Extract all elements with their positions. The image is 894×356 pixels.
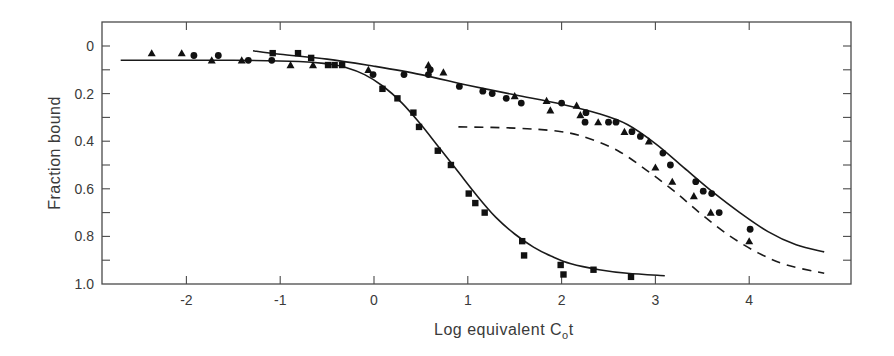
y-tick-label: 0.8: [75, 228, 95, 244]
y-tick-label: 0: [86, 38, 94, 54]
x-tick-label: -2: [180, 292, 193, 308]
x-tick-label: 2: [558, 292, 566, 308]
x-axis-title-tail: t: [569, 321, 574, 338]
circle-marker: [401, 71, 408, 78]
circle-marker: [692, 178, 699, 185]
circle-marker: [518, 100, 525, 107]
circle-marker: [660, 150, 667, 157]
square-marker: [521, 252, 527, 258]
circle-marker: [191, 52, 198, 59]
triangle-marker: [364, 66, 372, 73]
x-tick-label: 0: [370, 292, 378, 308]
curve-fit-circles-triangles: [253, 51, 824, 252]
triangle-marker: [178, 49, 186, 56]
circle-marker: [716, 209, 723, 216]
curve-predicted-dashed: [458, 127, 824, 273]
triangle-marker: [546, 106, 554, 113]
y-tick-label: 0.2: [75, 86, 95, 102]
curve-fit-squares: [121, 60, 665, 275]
square-marker: [435, 148, 441, 154]
square-marker: [269, 50, 275, 56]
square-marker: [519, 238, 525, 244]
triangle-marker: [573, 102, 581, 109]
triangle-marker: [745, 237, 753, 244]
circle-marker: [503, 95, 510, 102]
triangle-marker: [690, 192, 698, 199]
circle-marker: [708, 190, 715, 197]
x-axis-title: Log equivalent Cot: [434, 321, 574, 341]
x-tick-label: -1: [274, 292, 287, 308]
x-tick-label: 4: [745, 292, 753, 308]
square-marker: [295, 50, 301, 56]
y-tick-label: 0.4: [75, 133, 95, 149]
x-axis-title-main: Log equivalent C: [434, 321, 562, 338]
x-tick-label: 1: [464, 292, 472, 308]
square-marker: [325, 62, 331, 68]
square-marker: [472, 200, 478, 206]
data-markers: [148, 49, 754, 280]
circle-marker: [667, 162, 674, 169]
circle-marker: [479, 88, 486, 95]
triangle-marker: [651, 163, 659, 170]
square-marker: [416, 124, 422, 130]
circle-marker: [583, 109, 590, 116]
triangle-marker: [668, 178, 676, 185]
circle-marker: [215, 52, 222, 59]
square-marker: [628, 274, 634, 280]
square-marker: [339, 62, 345, 68]
y-tick-label: 0.6: [75, 181, 95, 197]
fitted-curves: [121, 51, 825, 276]
y-axis-title: Fraction bound: [46, 96, 63, 210]
circle-marker: [582, 119, 589, 126]
square-marker: [560, 271, 566, 277]
square-marker: [448, 162, 454, 168]
x-tick-labels: -2-101234: [180, 292, 753, 308]
square-marker: [590, 267, 596, 273]
square-marker: [331, 62, 337, 68]
x-tick-label: 3: [652, 292, 660, 308]
triangle-marker: [707, 209, 715, 216]
triangle-marker: [439, 68, 447, 75]
square-marker: [379, 86, 385, 92]
circle-marker: [245, 57, 252, 64]
circle-marker: [268, 57, 275, 64]
triangle-marker: [148, 49, 156, 56]
triangle-marker: [287, 61, 295, 68]
circle-marker: [558, 100, 565, 107]
x-axis-title-subscript: o: [562, 329, 569, 341]
square-marker: [481, 209, 487, 215]
square-marker: [394, 95, 400, 101]
square-marker: [308, 55, 314, 61]
triangle-marker: [620, 128, 628, 135]
chart: -2-101234 00.20.40.60.81.0 Fraction boun…: [0, 0, 894, 356]
circle-marker: [489, 90, 496, 97]
y-tick-labels: 00.20.40.60.81.0: [75, 38, 95, 292]
circle-marker: [456, 83, 463, 90]
circle-marker: [700, 188, 707, 195]
circle-marker: [747, 226, 754, 233]
circle-marker: [637, 133, 644, 140]
square-marker: [466, 190, 472, 196]
square-marker: [410, 109, 416, 115]
triangle-marker: [424, 61, 432, 68]
square-marker: [557, 262, 563, 268]
y-tick-label: 1.0: [75, 276, 95, 292]
circle-marker: [605, 119, 612, 126]
circle-marker: [613, 119, 620, 126]
circle-marker: [629, 128, 636, 135]
triangle-marker: [594, 118, 602, 125]
